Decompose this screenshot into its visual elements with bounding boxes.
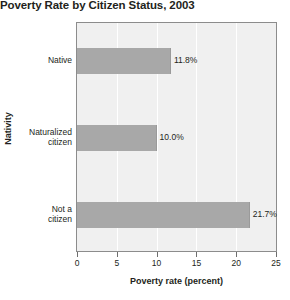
chart-figure: Poverty Rate by Citizen Status, 2003 11.… <box>0 0 290 300</box>
x-axis-tick-label: 20 <box>224 258 248 268</box>
x-axis-tick-mark <box>117 252 118 257</box>
x-axis-tick-mark <box>236 252 237 257</box>
x-axis-tick-mark <box>196 252 197 257</box>
x-axis-tick-mark <box>157 252 158 257</box>
bar <box>77 48 171 74</box>
x-axis-title: Poverty rate (percent) <box>76 276 277 287</box>
chart-title: Poverty Rate by Citizen Status, 2003 <box>0 0 290 14</box>
x-axis-tick-label: 15 <box>184 258 208 268</box>
bar-value-label: 21.7% <box>253 209 277 219</box>
x-axis-tick-label: 5 <box>105 258 129 268</box>
category-label: Native <box>0 55 72 65</box>
category-label: Not a citizen <box>0 204 72 224</box>
x-axis-tick-label: 0 <box>65 258 89 268</box>
bar-value-label: 11.8% <box>174 55 197 65</box>
x-axis-tick-mark <box>276 252 277 257</box>
bar <box>77 125 157 151</box>
x-axis-tick-mark <box>77 252 78 257</box>
y-axis-title: Nativity <box>3 99 14 159</box>
bar <box>77 202 250 228</box>
x-axis-tick-label: 25 <box>264 258 288 268</box>
x-axis-tick-label: 10 <box>145 258 169 268</box>
bar-value-label: 10.0% <box>160 132 184 142</box>
